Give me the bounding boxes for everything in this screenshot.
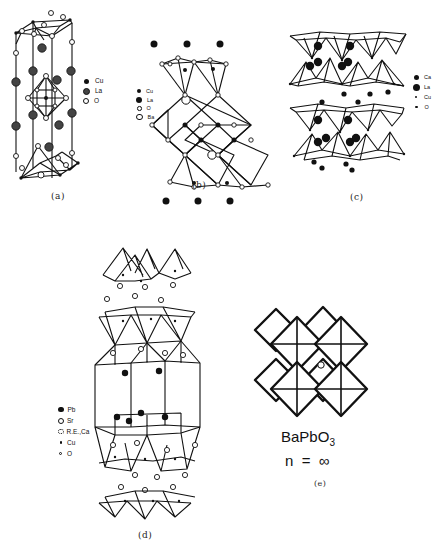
ba-la-cuprate-drawing — [150, 40, 270, 180]
panel-a-structure — [0, 0, 130, 200]
caption-e: (e) — [314, 479, 326, 488]
legend-d: Pb Sr R.E.,Ca Cu O — [58, 404, 89, 459]
legend-a-o: O — [83, 96, 103, 106]
n-infinity-label: n = ∞ — [285, 452, 329, 469]
caption-b: (b) — [192, 180, 206, 190]
cu-atom-icon — [84, 79, 89, 84]
la-atom-icon — [136, 97, 142, 103]
formula-bapbo3: BaPbO3 — [281, 428, 335, 448]
legend-d-cu: Cu — [58, 437, 89, 448]
o-atom-icon — [415, 106, 418, 109]
legend-c-cu: Cu — [413, 92, 431, 102]
bapbo3-octahedra-drawing — [255, 305, 365, 415]
cu-atom-icon — [415, 96, 417, 98]
caption-a: (a) — [51, 191, 65, 201]
la-atom-icon — [83, 88, 90, 95]
cu-atom-icon — [137, 89, 141, 93]
sr-atom-icon — [58, 418, 64, 424]
legend-c-ca: Ca — [413, 72, 431, 82]
legend-c-o: O — [413, 102, 431, 112]
panel-d-structure — [95, 245, 210, 520]
legend-a-la: La — [83, 86, 103, 96]
re-ca-atom-icon — [58, 429, 64, 435]
pb-atom-icon — [58, 407, 64, 413]
legend-d-pb: Pb — [58, 404, 89, 415]
legend-d-re-ca: R.E.,Ca — [58, 426, 89, 437]
panel-e-structure — [255, 305, 365, 415]
la-atom-icon — [413, 84, 420, 91]
ca-atom-icon — [414, 75, 419, 80]
legend-a-cu: Cu — [83, 76, 103, 86]
legend-b: Cu La O Ba — [136, 87, 154, 121]
legend-b-cu: Cu — [136, 87, 154, 96]
legend-c-la: La — [413, 82, 431, 92]
o-atom-icon — [137, 106, 142, 111]
caption-c: (c) — [350, 192, 364, 202]
panel-b-structure — [150, 40, 270, 180]
legend-b-la: La — [136, 96, 154, 105]
panel-c-structure — [290, 28, 410, 188]
legend-b-o: O — [136, 104, 154, 113]
la2cuo4-cell-drawing — [0, 0, 130, 200]
pb-sr-cuprate-drawing — [95, 245, 210, 520]
cu-atom-icon — [60, 441, 63, 444]
o-atom-icon — [83, 98, 89, 104]
legend-c: Ca La Cu O — [413, 72, 431, 112]
legend-d-sr: Sr — [58, 415, 89, 426]
caption-d: (d) — [138, 530, 152, 540]
legend-d-o: O — [58, 448, 89, 459]
ba-atom-icon — [136, 114, 143, 121]
o-atom-icon — [59, 452, 62, 455]
legend-a: Cu La O — [83, 76, 103, 106]
la-ca-cuprate-drawing — [290, 28, 410, 188]
legend-b-ba: Ba — [136, 113, 154, 122]
